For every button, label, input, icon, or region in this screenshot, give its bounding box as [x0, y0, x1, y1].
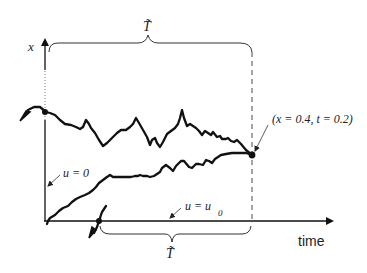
left-boundary-leader [48, 175, 60, 186]
upper-path [24, 107, 252, 155]
bottom-brace [100, 226, 251, 242]
bottom-boundary-leader [170, 208, 181, 218]
upper-path-arrow-icon [20, 111, 30, 121]
diagram: x time T̃ T̃ (x = 0.4, t = 0.2) u = 0 u … [0, 0, 367, 273]
bottom-boundary-label: u = u [185, 199, 211, 213]
lower-path-start-dot [96, 218, 102, 224]
endpoint-dot [249, 152, 256, 159]
point-annotation-label: (x = 0.4, t = 0.2) [272, 112, 353, 126]
top-brace [49, 35, 252, 52]
x-axis-label: x [27, 39, 34, 54]
left-boundary-label: u = 0 [63, 166, 89, 180]
time-axis-label: time [298, 233, 325, 249]
point-annotation-leader [255, 125, 268, 151]
bottom-brace-label: T̃ [166, 246, 175, 261]
top-brace-label: T̃ [143, 19, 152, 34]
bottom-boundary-subscript: 0 [218, 208, 223, 218]
axes: x time [27, 39, 332, 249]
upper-path-start-dot [42, 109, 48, 115]
